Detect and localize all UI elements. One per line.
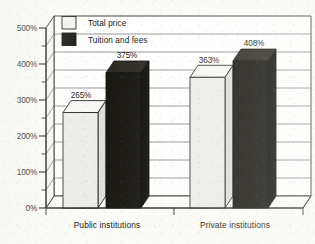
- y-tick-label: 100%: [17, 168, 37, 177]
- plot-left-wall: [46, 16, 54, 208]
- chart-canvas: 500% 400% 300% 200% 100% 0%: [0, 0, 315, 244]
- data-label-public-total: 265%: [71, 91, 92, 100]
- y-axis: [39, 28, 46, 208]
- x-label-private: Private institutions: [200, 220, 270, 230]
- legend-item-total-price[interactable]: Total price: [62, 17, 127, 30]
- data-label-private-total: 363%: [199, 56, 220, 65]
- bar-public-tuition-and-fees[interactable]: [106, 61, 149, 208]
- y-tick-label: 400%: [17, 60, 37, 69]
- legend-item-tuition-and-fees[interactable]: Tuition and fees: [62, 33, 148, 46]
- y-tick-label: 0%: [26, 204, 37, 213]
- y-tick-label: 500%: [17, 24, 37, 33]
- bar-chart-3d: 500% 400% 300% 200% 100% 0%: [0, 0, 315, 244]
- y-tick-label: 300%: [17, 96, 37, 105]
- y-tick-labels: 500% 400% 300% 200% 100% 0%: [17, 24, 37, 213]
- bar-public-total-price[interactable]: [63, 101, 106, 208]
- data-label-private-tuition: 408%: [244, 39, 265, 48]
- legend-swatch-light: [62, 17, 76, 30]
- data-label-public-tuition: 375%: [117, 51, 138, 60]
- x-axis: [46, 208, 303, 215]
- legend-swatch-dark: [62, 33, 76, 46]
- y-tick-label: 200%: [17, 132, 37, 141]
- legend-label-total-price: Total price: [88, 19, 127, 28]
- legend-label-tuition-and-fees: Tuition and fees: [88, 36, 148, 45]
- bar-private-total-price[interactable]: [190, 65, 233, 208]
- bar-private-tuition-and-fees[interactable]: [233, 49, 276, 208]
- x-category-labels: Public institutions Private institutions: [74, 220, 270, 230]
- x-label-public: Public institutions: [74, 220, 141, 230]
